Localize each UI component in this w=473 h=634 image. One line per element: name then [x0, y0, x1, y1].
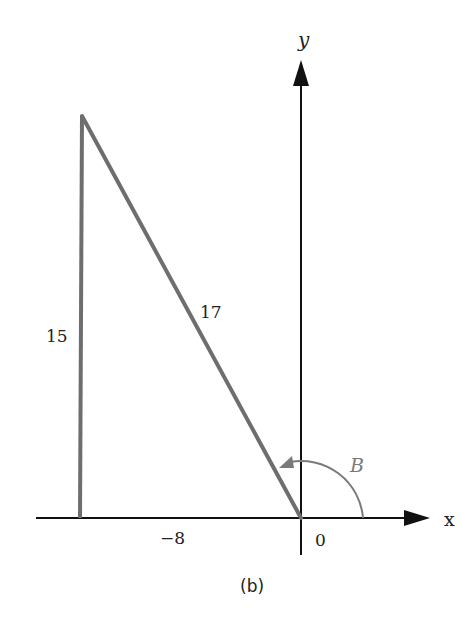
y-axis	[293, 60, 309, 555]
vertical-side	[80, 116, 82, 518]
triangle	[80, 116, 301, 518]
base-label: −8	[160, 530, 185, 547]
x-axis-label: x	[444, 510, 455, 529]
angle-label: B	[350, 456, 364, 475]
origin-label: 0	[315, 532, 326, 549]
hypotenuse-label: 17	[200, 304, 222, 321]
hypotenuse	[82, 116, 301, 518]
angle-arrow-icon	[279, 456, 294, 468]
x-axis	[36, 510, 430, 526]
x-axis-arrow-icon	[404, 510, 430, 526]
diagram-canvas	[0, 0, 473, 634]
vertical-side-label: 15	[46, 328, 68, 345]
figure-caption: (b)	[240, 578, 264, 595]
y-axis-arrow-icon	[293, 60, 309, 86]
y-axis-label: y	[298, 30, 309, 50]
